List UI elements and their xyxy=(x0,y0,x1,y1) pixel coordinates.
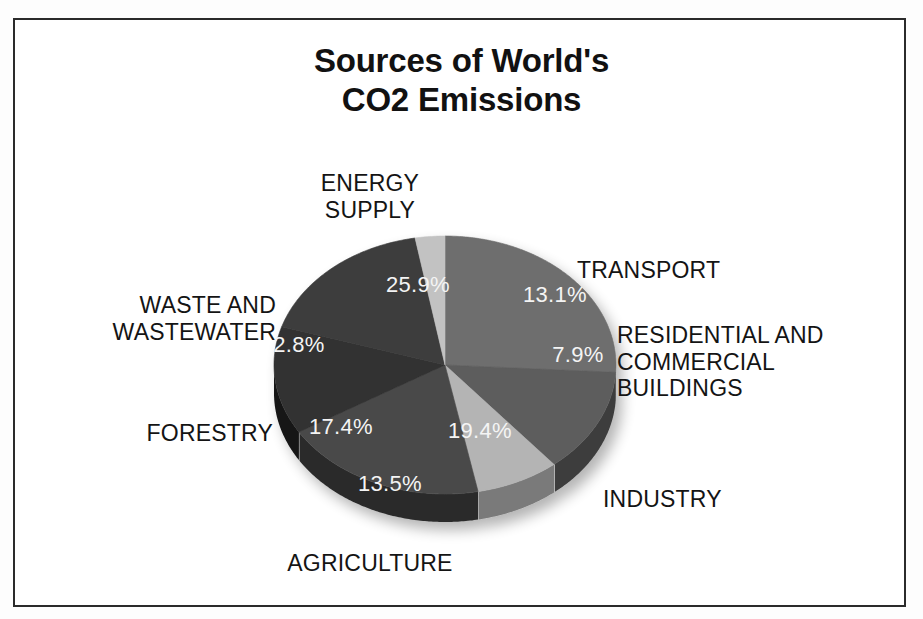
slice-value-energy-supply: 25.9% xyxy=(363,272,473,298)
slice-value-agriculture: 13.5% xyxy=(340,471,440,497)
slice-label-waste-and-wastewater: WASTE AND WASTEWATER xyxy=(61,292,276,345)
slice-value-forestry: 17.4% xyxy=(291,414,391,440)
slice-label-industry: INDUSTRY xyxy=(603,486,823,513)
slice-label-transport: TRANSPORT xyxy=(577,257,827,284)
figure-root: Sources of World's CO2 Emissions xyxy=(0,0,923,619)
slice-label-agriculture: AGRICULTURE xyxy=(240,550,500,577)
slice-label-residential-and-commercial-buildings: RESIDENTIAL AND COMMERCIAL BUILDINGS xyxy=(617,322,877,402)
slice-label-energy-supply: ENERGY SUPPLY xyxy=(270,170,470,223)
slice-value-residential-and-commercial-buildings: 7.9% xyxy=(528,342,628,368)
slice-label-forestry: FORESTRY xyxy=(93,420,273,447)
chart-frame: Sources of World's CO2 Emissions xyxy=(13,18,906,607)
slice-value-waste-and-wastewater: 2.8% xyxy=(254,332,344,358)
slice-value-industry: 19.4% xyxy=(430,418,530,444)
slice-value-transport: 13.1% xyxy=(505,282,605,308)
